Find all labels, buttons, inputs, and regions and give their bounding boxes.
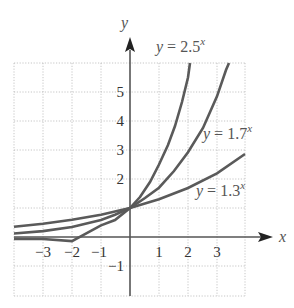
label-1-3: y = 1.3x [194, 179, 245, 200]
exponential-chart: −3 −2 −1 1 2 3 5 4 3 2 −1 x y y = 2.5x y… [0, 0, 294, 308]
y-tick-3: 3 [117, 142, 125, 158]
y-tick-4: 4 [117, 113, 125, 129]
y-tick-5: 5 [117, 84, 125, 100]
x-tick-minus-2: −2 [64, 244, 80, 260]
label-2-5: y = 2.5x [154, 35, 205, 56]
x-axis-label: x [278, 228, 286, 245]
x-tick-2: 2 [184, 244, 192, 260]
y-tick-minus-1: −1 [108, 258, 124, 274]
x-tick-1: 1 [155, 244, 163, 260]
label-1-7: y = 1.7x [201, 122, 252, 143]
y-axis-arrow-icon [125, 37, 135, 52]
y-axis-label: y [119, 14, 129, 32]
x-tick-minus-3: −3 [35, 244, 51, 260]
y-tick-2: 2 [117, 171, 125, 187]
x-tick-minus-1: −1 [91, 244, 107, 260]
x-tick-3: 3 [213, 244, 221, 260]
